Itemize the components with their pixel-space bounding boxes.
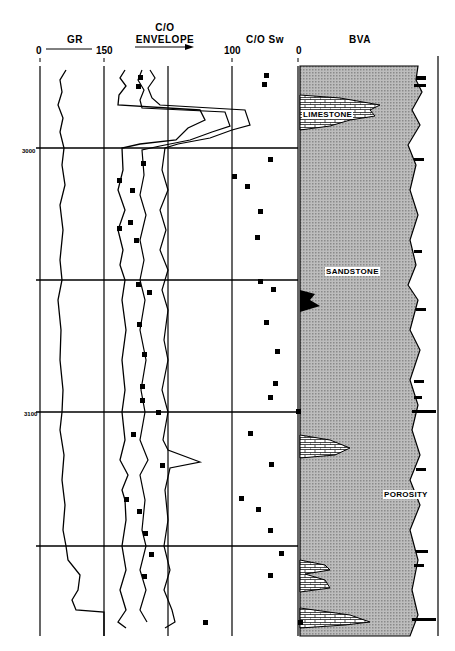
- limestone-label: LIMESTONE: [302, 110, 353, 119]
- sandstone-label: SANDSTONE: [325, 267, 380, 276]
- porosity-label: POROSITY: [383, 490, 429, 499]
- well-log-plot: [0, 0, 455, 651]
